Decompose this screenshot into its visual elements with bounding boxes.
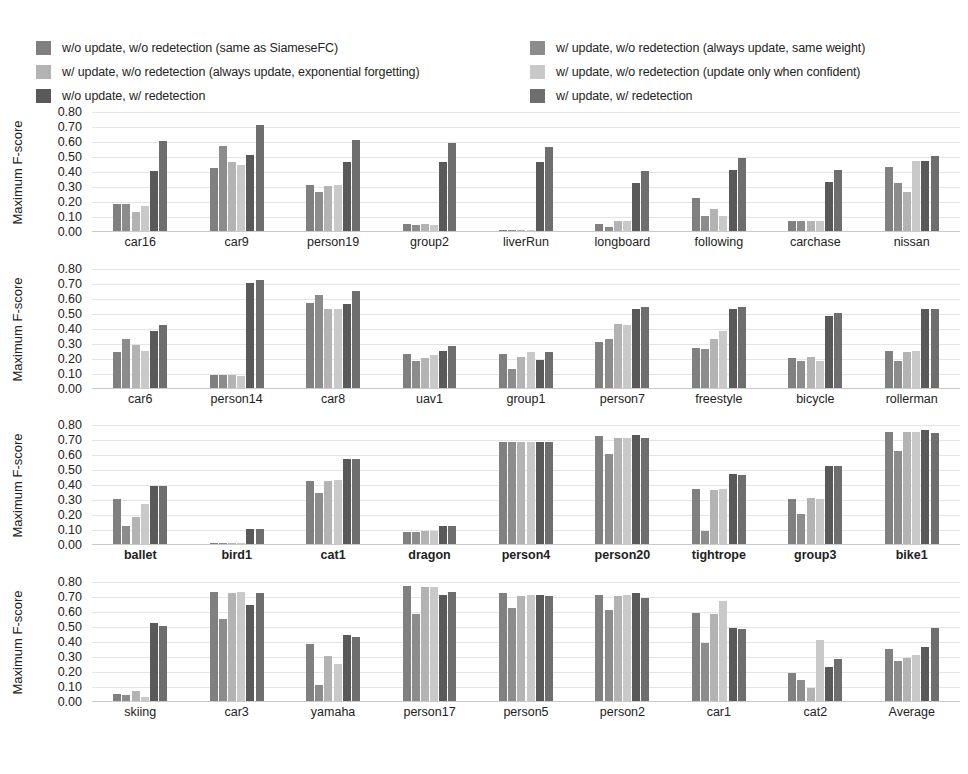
bar: [324, 481, 332, 544]
x-axis-tick-label: liverRun: [478, 235, 574, 257]
x-axis-tick-label: car3: [188, 705, 284, 727]
plot-area: [92, 425, 960, 545]
x-axis-tick-label: nissan: [864, 235, 960, 257]
bar: [403, 354, 411, 389]
y-axis-tick-label: 0.00: [58, 225, 82, 239]
bars: [106, 582, 175, 701]
x-axis-labels: balletbird1cat1dragonperson4person20tigh…: [92, 548, 960, 570]
bar: [421, 587, 429, 701]
x-axis-tick-label: group1: [478, 392, 574, 414]
bar: [825, 466, 833, 544]
bar: [545, 147, 553, 231]
bar: [641, 171, 649, 231]
x-axis-tick-label: skiing: [92, 705, 188, 727]
bar: [931, 156, 939, 231]
y-axis-tick-label: 0.20: [58, 665, 82, 679]
bar: [237, 165, 245, 231]
bars: [298, 582, 367, 701]
bars: [491, 112, 560, 231]
bars: [877, 582, 946, 701]
bar: [738, 475, 746, 544]
y-axis-tick-label: 0.20: [58, 508, 82, 522]
bar-group: [285, 112, 381, 231]
bar: [228, 593, 236, 701]
bar: [159, 141, 167, 231]
bar: [256, 593, 264, 701]
bar: [527, 352, 535, 388]
bars: [491, 269, 560, 388]
bars: [684, 582, 753, 701]
bars: [781, 269, 850, 388]
bar: [912, 161, 920, 232]
chart-panel-3: Maximum F-score0.800.700.600.500.400.300…: [0, 425, 968, 581]
y-axis-title-label: Maximum F-score: [10, 590, 25, 694]
x-axis-tick-label: person4: [478, 548, 574, 570]
y-axis-tick-label: 0.20: [58, 195, 82, 209]
bar: [632, 183, 640, 231]
x-axis-tick-label: car6: [92, 392, 188, 414]
bar: [306, 185, 314, 232]
bar: [894, 183, 902, 231]
bar: [921, 309, 929, 389]
legend-item-label: w/ update, w/ redetection: [556, 89, 692, 103]
bar: [536, 360, 544, 389]
bars: [684, 269, 753, 388]
bar-group: [285, 582, 381, 701]
legend-item: w/ update, w/o redetection (always updat…: [36, 60, 420, 84]
bar: [219, 543, 227, 544]
y-axis-tick-label: 0.50: [58, 463, 82, 477]
y-axis-title-label: Maximum F-score: [10, 433, 25, 537]
bar: [237, 592, 245, 702]
bar: [499, 354, 507, 389]
bar: [632, 593, 640, 701]
bar: [797, 680, 805, 701]
x-axis-tick-label: car16: [92, 235, 188, 257]
y-axis-tick-label: 0.40: [58, 322, 82, 336]
bar: [885, 649, 893, 702]
x-axis-labels: skiingcar3yamahaperson17person5person2ca…: [92, 705, 960, 727]
bar-group: [188, 582, 284, 701]
bar: [150, 331, 158, 388]
bar: [788, 221, 796, 232]
bar: [421, 358, 429, 388]
x-axis-labels: car16car9person19group2liverRunlongboard…: [92, 235, 960, 257]
y-axis-tick-label: 0.00: [58, 538, 82, 552]
bar: [122, 526, 130, 544]
bar: [237, 376, 245, 388]
chart-panel-1: Maximum F-score0.800.700.600.500.400.300…: [0, 112, 968, 268]
bars: [395, 425, 464, 544]
bar: [430, 225, 438, 231]
bars: [588, 582, 657, 701]
bar: [210, 168, 218, 231]
bar: [256, 280, 264, 388]
bar: [692, 198, 700, 231]
bar: [403, 224, 411, 232]
bar: [430, 355, 438, 388]
bar: [113, 499, 121, 544]
legend-item-label: w/o update, w/ redetection: [62, 89, 205, 103]
bar: [315, 493, 323, 544]
x-axis-tick-label: freestyle: [671, 392, 767, 414]
y-axis-ticks: 0.800.700.600.500.400.300.200.100.00: [28, 269, 86, 389]
bar: [623, 325, 631, 388]
bars: [588, 425, 657, 544]
bar: [448, 143, 456, 232]
bar-group: [188, 425, 284, 544]
y-axis-tick-label: 0.50: [58, 620, 82, 634]
bar-group: [381, 269, 477, 388]
bar: [448, 346, 456, 388]
bar-group: [767, 425, 863, 544]
bar: [517, 596, 525, 701]
bar: [306, 481, 314, 544]
bar: [219, 375, 227, 389]
y-axis-title: Maximum F-score: [6, 425, 28, 545]
bars: [298, 425, 367, 544]
y-axis-ticks: 0.800.700.600.500.400.300.200.100.00: [28, 425, 86, 545]
bar: [701, 643, 709, 702]
bars: [877, 269, 946, 388]
x-axis-tick-label: carchase: [767, 235, 863, 257]
bar: [614, 438, 622, 545]
bars: [781, 112, 850, 231]
bar-groups: [92, 269, 960, 388]
y-axis-tick-label: 0.60: [58, 605, 82, 619]
